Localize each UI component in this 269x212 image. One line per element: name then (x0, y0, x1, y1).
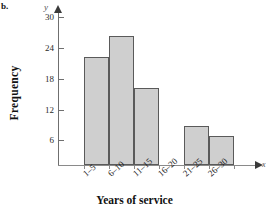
y-tick-24 (58, 48, 64, 49)
x-label-16-20: 16–20 (156, 156, 179, 178)
y-tick-label-18: 18 (36, 75, 54, 84)
y-tick-label-12: 12 (36, 106, 54, 115)
y-axis-line (58, 12, 59, 166)
x-axis-name: x (262, 160, 266, 169)
y-tick-12 (58, 110, 64, 111)
histogram-plot: y x 6 12 18 24 30 1–5 6–10 11–15 16–20 2… (0, 0, 269, 212)
y-axis-name: y (44, 2, 48, 12)
x-tick-6 (234, 165, 235, 169)
bar-6-10 (109, 36, 134, 165)
x-axis-title: Years of service (0, 194, 269, 206)
bar-1-5 (84, 57, 109, 166)
y-axis-title-text: Frequency (8, 50, 20, 136)
bar-11-15 (134, 88, 159, 166)
y-tick-label-6: 6 (36, 136, 54, 145)
y-tick-6 (58, 140, 64, 141)
y-tick-18 (58, 79, 64, 80)
y-tick-30 (58, 17, 64, 18)
y-tick-label-30-wrap: 30 (0, 13, 58, 22)
y-tick-label-24: 24 (36, 44, 54, 53)
y-tick-label-30: 30 (36, 13, 54, 22)
y-axis-title: Frequency (6, 52, 22, 138)
